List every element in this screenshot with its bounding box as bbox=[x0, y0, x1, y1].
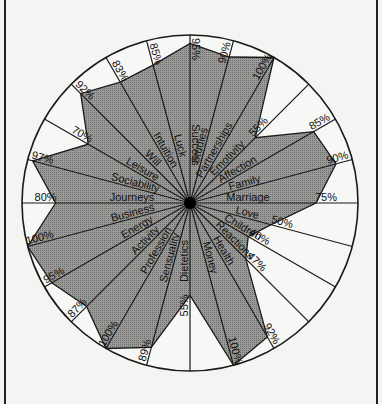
value-label-success: 95% bbox=[190, 38, 202, 60]
value-label-dietetics: 55% bbox=[178, 294, 190, 316]
category-label-dietetics: Dietetics bbox=[178, 239, 190, 282]
center-hub bbox=[184, 197, 196, 209]
category-label-journeys: Journeys bbox=[110, 191, 155, 203]
value-label-journeys: 80% bbox=[35, 191, 57, 203]
radar-chart: SuccessStudiesPartnershipsEmotivityAffec… bbox=[0, 0, 382, 404]
category-label-marriage: Marriage bbox=[226, 191, 269, 203]
value-label-marriage: 75% bbox=[315, 191, 337, 203]
